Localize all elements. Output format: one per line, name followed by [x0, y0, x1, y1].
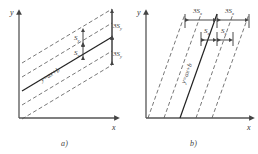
equation-text-b: y=ax+b: [179, 61, 193, 85]
panel-a-outer-labels: 3Sy 3Sy: [112, 22, 122, 59]
figure-root: y=ax+b Sy Sy 3Sy 3Sy y x: [0, 0, 258, 154]
panel-a-caption: a): [0, 139, 129, 148]
panel-b-plot: y=ax+b 3Sx 3Sx: [129, 0, 258, 154]
panel-a-plot: y=ax+b Sy Sy 3Sy 3Sy y x: [0, 0, 129, 154]
panel-b: y=ax+b 3Sx 3Sx: [129, 0, 258, 154]
measure-label-sy-upper: Sy: [74, 34, 80, 43]
panel-b-outer-measure: [185, 14, 249, 28]
panel-a: y=ax+b Sy Sy 3Sy 3Sy y x: [0, 0, 129, 154]
measure-label-3sx-right: 3Sx: [224, 7, 234, 16]
panel-b-outer-labels: 3Sx 3Sx: [192, 7, 234, 16]
measure-label-3sy-lower: 3Sy: [112, 50, 122, 59]
equation-text-a: y=ax+b: [38, 66, 61, 84]
panel-b-y-axis-label: y: [136, 8, 141, 17]
measure-label-3sx-left: 3Sx: [192, 7, 202, 16]
panel-b-equation-label: y=ax+b: [179, 61, 193, 85]
panel-a-equation-label: y=ax+b: [38, 66, 61, 84]
panel-a-inner-labels: Sy Sy: [74, 34, 80, 58]
panel-b-x-axis-label: x: [246, 123, 251, 132]
panel-a-x-axis-label: x: [111, 123, 116, 132]
measure-label-sx-left: Sx: [204, 27, 210, 36]
panel-b-caption: b): [129, 139, 258, 148]
measure-label-sy-lower: Sy: [74, 49, 80, 58]
panel-a-y-axis-label: y: [9, 8, 14, 17]
measure-label-3sy-upper: 3Sy: [112, 22, 122, 31]
measure-label-sx-right: Sx: [221, 27, 227, 36]
panel-a-regression-line: [22, 37, 112, 91]
panel-b-inner-labels: Sx Sx: [204, 27, 227, 36]
